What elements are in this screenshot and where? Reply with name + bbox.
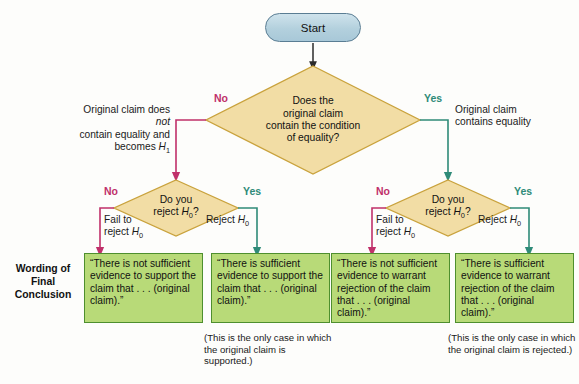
note-no-right-h: H xyxy=(404,226,411,237)
conclusion-box[interactable]: “There is not sufficient evidence to sup… xyxy=(84,253,203,323)
edge-label-no-top: No xyxy=(214,92,228,104)
decision-left-q: ? xyxy=(193,206,199,217)
note-yes-right-sub: 0 xyxy=(517,219,521,228)
decision-top-line2: original claim xyxy=(266,108,360,120)
decision-right-line1: Do you xyxy=(425,194,470,206)
note-no-left-line1: Fail to xyxy=(104,214,143,226)
decision-right-h: H xyxy=(453,206,460,217)
note-no-right-line2a: reject xyxy=(376,226,404,237)
edge-label-yes-right: Yes xyxy=(514,185,532,197)
start-label: Start xyxy=(301,22,325,34)
edge-label-no-right: No xyxy=(376,185,390,197)
note-no-left-sub: 0 xyxy=(139,231,143,240)
note-yes-left: Reject H0 xyxy=(206,214,249,230)
conclusion-box[interactable]: “There is sufficient evidence to warrant… xyxy=(455,253,574,323)
start-node[interactable]: Start xyxy=(265,13,361,42)
decision-top-line3: contain the condition xyxy=(266,120,360,132)
note-no-top-sub: 1 xyxy=(166,146,170,155)
note-yes-top-line2: contains equality xyxy=(455,116,570,128)
note-no-top-line1a: Original claim does xyxy=(83,104,170,115)
conclusion-box[interactable]: “There is sufficient evidence to support… xyxy=(211,253,330,323)
note-yes-right-a: Reject xyxy=(478,214,510,225)
edge-label-yes-top: Yes xyxy=(424,92,442,104)
note-yes-right-h: H xyxy=(510,214,517,225)
decision-equality-condition[interactable]: Does the original claim contain the cond… xyxy=(233,76,393,164)
note-no-top-line3a: becomes xyxy=(114,141,158,152)
edge-label-no-left: No xyxy=(104,185,118,197)
note-yes-left-a: Reject xyxy=(206,214,238,225)
note-no-left-h: H xyxy=(132,226,139,237)
wording-line3: Conclusion xyxy=(2,288,84,301)
decision-right-line2a: reject xyxy=(425,206,453,217)
decision-left-line1: Do you xyxy=(153,194,198,206)
note-yes-top: Original claim contains equality xyxy=(455,104,570,129)
decision-top-line4: of equality? xyxy=(266,132,360,144)
decision-left-line2a: reject xyxy=(153,206,181,217)
decision-top-line1: Does the xyxy=(266,95,360,107)
decision-left-h: H xyxy=(181,206,188,217)
decision-right-q: ? xyxy=(465,206,471,217)
note-no-left: Fail to reject H0 xyxy=(104,214,143,243)
note-yes-top-line1: Original claim xyxy=(455,104,570,116)
conclusion-footnote: (This is the only case in which the orig… xyxy=(448,332,579,355)
note-yes-left-sub: 0 xyxy=(245,219,249,228)
wording-line1: Wording of xyxy=(2,262,84,275)
note-no-top: Original claim does not contain equality… xyxy=(74,104,170,157)
note-no-right: Fail to reject H0 xyxy=(376,214,415,243)
note-yes-right: Reject H0 xyxy=(478,214,521,230)
note-no-left-line2a: reject xyxy=(104,226,132,237)
note-no-top-line2: contain equality and xyxy=(74,129,170,141)
conclusion-footnote: (This is the only case in which the orig… xyxy=(204,332,336,367)
note-yes-left-h: H xyxy=(238,214,245,225)
note-no-right-line1: Fail to xyxy=(376,214,415,226)
edge-label-yes-left: Yes xyxy=(243,185,261,197)
conclusion-box[interactable]: “There is not sufficient evidence to war… xyxy=(331,253,450,323)
note-no-right-sub: 0 xyxy=(411,231,415,240)
note-no-top-not: not xyxy=(156,116,170,127)
wording-of-final-conclusion-label: Wording of Final Conclusion xyxy=(2,262,84,301)
flowchart-canvas: Start Does the original claim contain th… xyxy=(0,0,579,384)
note-no-top-h: H xyxy=(159,141,166,152)
wording-line2: Final xyxy=(2,275,84,288)
